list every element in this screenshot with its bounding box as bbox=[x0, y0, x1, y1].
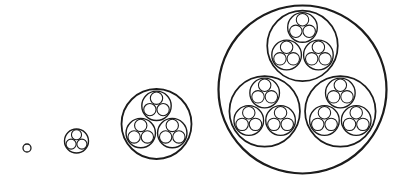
circle-level-0-depth-3 bbox=[274, 53, 286, 65]
circle-level-0-depth-2 bbox=[150, 92, 162, 104]
circle-level-1-depth-2 bbox=[234, 106, 264, 136]
circle-level-0-depth-0 bbox=[23, 144, 31, 152]
circle-level-1-depth-2 bbox=[272, 40, 302, 70]
circle-level-0-depth-3 bbox=[343, 118, 355, 130]
circle-level-0-depth-3 bbox=[334, 79, 346, 91]
circle-level-0-depth-2 bbox=[159, 131, 171, 143]
circle-level-1-depth-1 bbox=[158, 118, 187, 147]
circle-level-0-depth-3 bbox=[341, 91, 353, 103]
circle-level-0-depth-3 bbox=[281, 118, 293, 130]
circle-level-0-depth-3 bbox=[252, 91, 264, 103]
circle-level-0-depth-3 bbox=[350, 107, 362, 119]
stage-3-circle-with-twenty-seven bbox=[219, 6, 387, 174]
circle-level-1-depth-2 bbox=[310, 106, 340, 136]
circle-level-0-depth-3 bbox=[280, 41, 292, 53]
circle-level-0-depth-3 bbox=[325, 118, 337, 130]
circle-level-1-depth-1 bbox=[126, 118, 155, 147]
circle-level-1-depth-2 bbox=[250, 78, 280, 108]
circle-level-0-depth-2 bbox=[166, 119, 178, 131]
circle-level-0-depth-3 bbox=[258, 79, 270, 91]
circle-level-0-depth-3 bbox=[312, 118, 324, 130]
circle-level-0-depth-3 bbox=[265, 91, 277, 103]
circle-level-0-depth-3 bbox=[357, 118, 369, 130]
circle-level-0-depth-3 bbox=[249, 118, 261, 130]
circle-level-0-depth-3 bbox=[243, 107, 255, 119]
circle-level-1-depth-2 bbox=[341, 106, 371, 136]
circle-level-0-depth-2 bbox=[173, 131, 185, 143]
circle-level-0-depth-1 bbox=[77, 139, 87, 149]
circle-level-1-depth-2 bbox=[326, 78, 356, 108]
circle-level-0-depth-3 bbox=[287, 53, 299, 65]
circle-level-0-depth-3 bbox=[327, 91, 339, 103]
circle-level-0-depth-3 bbox=[312, 41, 324, 53]
circle-level-0-depth-2 bbox=[144, 103, 156, 115]
circle-level-0-depth-1 bbox=[71, 130, 81, 140]
circle-level-2-depth-0 bbox=[122, 89, 192, 159]
circle-level-2-depth-1 bbox=[229, 76, 300, 147]
circle-level-0-depth-3 bbox=[305, 53, 317, 65]
circle-level-0-depth-3 bbox=[268, 118, 280, 130]
circle-level-0-depth-2 bbox=[135, 119, 147, 131]
circle-level-0-depth-3 bbox=[319, 53, 331, 65]
circle-level-0-depth-2 bbox=[141, 131, 153, 143]
circle-level-1-depth-2 bbox=[288, 13, 318, 43]
circle-level-1-depth-0 bbox=[65, 129, 89, 153]
circle-level-0-depth-3 bbox=[274, 107, 286, 119]
stage-2-circle-with-nine bbox=[122, 89, 192, 159]
nested-circle-fractal-diagram bbox=[0, 0, 404, 187]
circle-level-1-depth-2 bbox=[304, 40, 334, 70]
circle-level-0-depth-1 bbox=[66, 139, 76, 149]
circle-level-1-depth-2 bbox=[266, 106, 296, 136]
circle-level-0-depth-3 bbox=[236, 118, 248, 130]
circle-level-0-depth-3 bbox=[290, 25, 302, 37]
circle-level-1-depth-1 bbox=[142, 91, 171, 120]
stage-0-single-circle bbox=[23, 144, 31, 152]
circle-level-0-depth-3 bbox=[318, 107, 330, 119]
circle-level-0-depth-2 bbox=[128, 131, 140, 143]
circle-level-2-depth-1 bbox=[267, 11, 338, 82]
circle-level-0-depth-2 bbox=[157, 103, 169, 115]
circle-level-2-depth-1 bbox=[305, 76, 376, 147]
circle-level-0-depth-3 bbox=[296, 14, 308, 26]
stage-1-circle-with-three bbox=[65, 129, 89, 153]
circle-level-0-depth-3 bbox=[303, 25, 315, 37]
